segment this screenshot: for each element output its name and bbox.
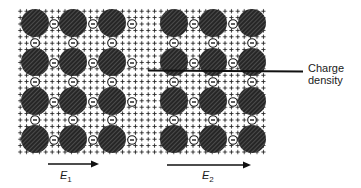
negative-ion-icon — [128, 136, 137, 145]
atom — [238, 125, 266, 153]
negative-ion-icon — [229, 59, 238, 68]
atom — [160, 9, 188, 37]
atom — [238, 87, 266, 115]
e2-label: E2 — [202, 169, 214, 184]
charge-density-line2: density — [308, 74, 344, 86]
atom — [59, 125, 87, 153]
atom — [59, 9, 87, 37]
e2-arrow-icon — [167, 162, 251, 169]
negative-ion-icon — [89, 98, 98, 107]
negative-ion-icon — [69, 116, 78, 125]
negative-ion-icon — [209, 78, 218, 87]
atom — [21, 87, 49, 115]
e1-arrow-icon — [48, 161, 99, 168]
negative-ion-icon — [248, 39, 257, 48]
negative-ion-icon — [50, 136, 59, 145]
negative-ion-icon — [89, 20, 98, 29]
negative-ion-icon — [31, 39, 40, 48]
atom — [98, 87, 126, 115]
negative-ion-icon — [190, 59, 199, 68]
positive-background-charge — [17, 8, 267, 156]
negative-ion-icon — [108, 39, 117, 48]
atom — [59, 48, 87, 76]
atom — [21, 9, 49, 37]
atom — [238, 9, 266, 37]
negative-ion-icon — [108, 78, 117, 87]
negative-ion-icon — [209, 39, 218, 48]
negative-ion-icon — [128, 98, 137, 107]
negative-ion-icon — [31, 78, 40, 87]
e1-subscript: 1 — [67, 175, 71, 184]
negative-ion-icon — [209, 116, 218, 125]
negative-ion-icon — [50, 59, 59, 68]
lattice-diagram — [0, 0, 361, 188]
negative-ion-icon — [248, 116, 257, 125]
negative-ion-icon — [69, 78, 78, 87]
negative-ion-icon — [190, 136, 199, 145]
atom — [21, 125, 49, 153]
e2-subscript: 2 — [209, 175, 213, 184]
atom — [98, 9, 126, 37]
atom — [59, 87, 87, 115]
negative-ion-icon — [128, 20, 137, 29]
atom — [199, 9, 227, 37]
negative-ion-icon — [50, 98, 59, 107]
atom — [98, 48, 126, 76]
charge-density-line — [148, 71, 303, 72]
negative-ion-icon — [190, 20, 199, 29]
atom — [160, 48, 188, 76]
negative-ion-icon — [170, 116, 179, 125]
negative-ion-icon — [89, 59, 98, 68]
atom — [199, 87, 227, 115]
atom — [199, 125, 227, 153]
negative-ion-icon — [248, 78, 257, 87]
e1-label: E1 — [60, 169, 72, 184]
negative-ion-icon — [108, 116, 117, 125]
negative-ion-icon — [31, 116, 40, 125]
negative-ion-icon — [69, 39, 78, 48]
atom — [160, 125, 188, 153]
atom — [21, 48, 49, 76]
atom — [160, 87, 188, 115]
negative-ion-icon — [50, 20, 59, 29]
negative-ion-icon — [229, 98, 238, 107]
negative-ion-icon — [128, 59, 137, 68]
negative-ion-icon — [190, 98, 199, 107]
negative-ion-icon — [170, 78, 179, 87]
negative-ion-icon — [170, 39, 179, 48]
negative-ion-icon — [229, 20, 238, 29]
negative-ion-icon — [89, 136, 98, 145]
charge-density-label: Charge density — [308, 62, 344, 86]
negative-ion-icon — [229, 136, 238, 145]
charge-density-line1: Charge — [308, 62, 344, 74]
atom — [98, 125, 126, 153]
